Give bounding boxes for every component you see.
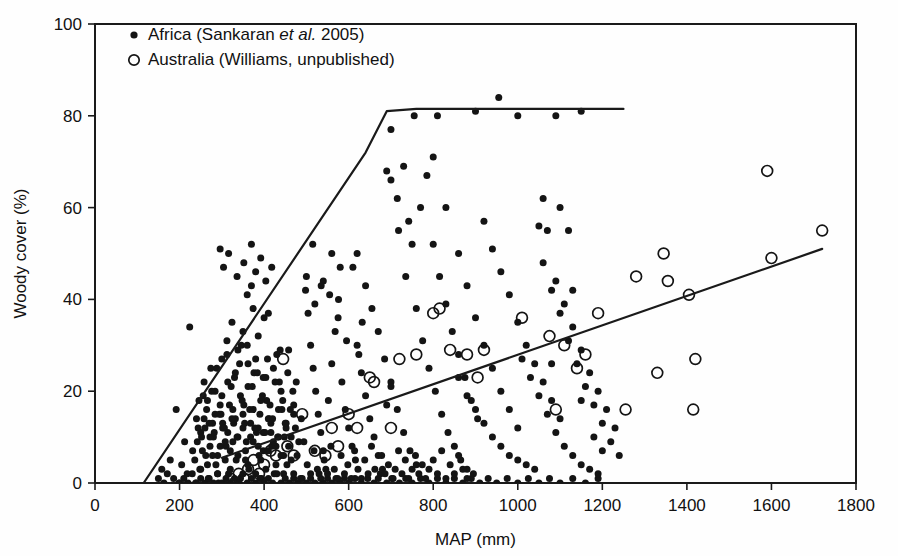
data-point-africa: [218, 392, 225, 399]
data-point-africa: [289, 388, 296, 395]
data-point-africa: [489, 434, 496, 441]
data-point-africa: [220, 264, 227, 271]
data-point-africa: [561, 443, 568, 450]
data-point-africa: [400, 429, 407, 436]
data-point-africa: [561, 300, 568, 307]
data-point-africa: [470, 470, 477, 477]
data-point-africa: [311, 480, 318, 487]
data-point-africa: [442, 475, 449, 482]
data-point-africa: [455, 452, 462, 459]
data-point-africa: [354, 342, 361, 349]
data-point-australia: [472, 372, 483, 383]
data-point-australia: [462, 349, 473, 360]
data-point-africa: [256, 411, 263, 418]
x-tick-label: 1600: [753, 496, 791, 515]
data-point-africa: [358, 369, 365, 376]
data-point-africa: [451, 470, 458, 477]
data-layer: [144, 94, 828, 488]
data-point-africa: [485, 475, 492, 482]
data-point-africa: [343, 337, 350, 344]
data-point-australia: [766, 253, 777, 264]
data-point-africa: [351, 447, 358, 454]
data-point-africa: [565, 227, 572, 234]
data-point-africa: [217, 401, 224, 408]
data-point-africa: [293, 379, 300, 386]
data-point-africa: [355, 351, 362, 358]
data-point-africa: [480, 420, 487, 427]
data-point-africa: [234, 273, 241, 280]
x-tick-label: 600: [334, 496, 362, 515]
y-tick-label: 0: [73, 474, 82, 493]
data-point-africa: [381, 356, 388, 363]
data-point-africa: [297, 475, 304, 482]
legend-label: Africa (Sankaran et al. 2005): [148, 25, 364, 44]
data-point-africa: [265, 310, 272, 317]
data-point-africa: [523, 342, 530, 349]
data-point-africa: [506, 291, 513, 298]
data-point-africa: [226, 401, 233, 408]
data-point-africa: [395, 227, 402, 234]
data-point-africa: [262, 374, 269, 381]
data-point-africa: [569, 452, 576, 459]
data-point-africa: [425, 365, 432, 372]
x-tick-label: 0: [90, 496, 99, 515]
data-point-africa: [312, 388, 319, 395]
data-point-africa: [375, 475, 382, 482]
data-point-africa: [228, 415, 235, 422]
data-point-africa: [394, 406, 401, 413]
data-point-africa: [445, 429, 452, 436]
data-point-africa: [607, 438, 614, 445]
data-point-australia: [652, 367, 663, 378]
data-point-africa: [371, 466, 378, 473]
data-point-africa: [382, 470, 389, 477]
series-australia: [225, 165, 828, 488]
data-point-africa: [328, 360, 335, 367]
data-point-africa: [519, 356, 526, 363]
data-point-africa: [531, 360, 538, 367]
data-point-africa: [354, 250, 361, 257]
data-point-africa: [394, 195, 401, 202]
data-point-africa: [223, 337, 230, 344]
data-point-africa: [464, 475, 471, 482]
data-point-africa: [185, 480, 192, 487]
data-point-africa: [616, 452, 623, 459]
data-point-africa: [272, 379, 279, 386]
data-point-africa: [252, 268, 259, 275]
x-tick-label: 1400: [668, 496, 706, 515]
data-point-africa: [514, 424, 521, 431]
data-point-africa: [544, 227, 551, 234]
data-point-africa: [206, 443, 213, 450]
data-point-africa: [277, 346, 284, 353]
data-point-africa: [311, 300, 318, 307]
data-point-africa: [552, 112, 559, 119]
data-point-africa: [387, 177, 394, 184]
data-point-africa: [413, 305, 420, 312]
data-point-africa: [415, 470, 422, 477]
data-point-africa: [349, 264, 356, 271]
data-point-africa: [231, 374, 238, 381]
data-point-africa: [245, 360, 252, 367]
data-point-africa: [317, 429, 324, 436]
data-point-africa: [228, 319, 235, 326]
data-point-africa: [552, 429, 559, 436]
data-point-africa: [546, 475, 553, 482]
data-point-africa: [326, 291, 333, 298]
legend-marker-open-circle-icon: [129, 55, 139, 65]
data-point-africa: [332, 328, 339, 335]
data-point-africa: [396, 480, 403, 487]
data-point-africa: [334, 475, 341, 482]
data-point-africa: [335, 296, 342, 303]
y-tick-label: 100: [54, 15, 82, 34]
data-point-africa: [548, 360, 555, 367]
legend-marker-filled-circle-icon: [130, 31, 137, 38]
data-point-africa: [335, 314, 342, 321]
data-point-africa: [244, 342, 251, 349]
data-point-africa: [170, 475, 177, 482]
data-point-africa: [191, 457, 198, 464]
data-point-africa: [422, 475, 429, 482]
data-point-africa: [261, 429, 268, 436]
data-point-australia: [662, 276, 673, 287]
x-tick-label: 1200: [583, 496, 621, 515]
data-point-africa: [436, 273, 443, 280]
data-point-africa: [269, 415, 276, 422]
